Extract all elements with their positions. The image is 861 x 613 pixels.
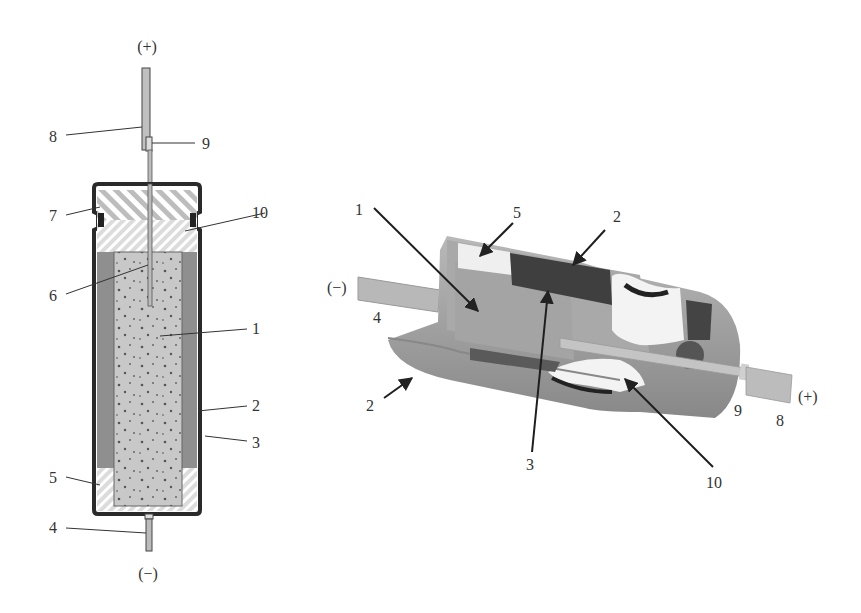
cutaway-label-4: 4 <box>373 309 381 326</box>
cutaway-label-5: 5 <box>513 204 521 221</box>
case-groove-right <box>190 213 196 227</box>
case-groove-left <box>98 213 104 227</box>
cutaway-polarity-positive: (+) <box>798 388 818 406</box>
anode-wire-embedded <box>148 184 152 306</box>
cutaway-label-3: 3 <box>526 456 534 473</box>
end-dark-block <box>686 300 712 340</box>
negative-lead <box>146 519 152 551</box>
label-4: 4 <box>49 519 57 536</box>
cutaway-label-8: 8 <box>776 412 784 429</box>
negative-lead-tab <box>145 514 153 519</box>
label-10: 10 <box>252 204 268 221</box>
cutaway-illustration: 1 5 2 (−) 4 2 3 10 9 8 (+) <box>327 201 818 491</box>
label-2: 2 <box>252 397 260 414</box>
label-7: 7 <box>49 207 57 224</box>
cutaway-label-9: 9 <box>734 402 742 419</box>
positive-lead-strip <box>746 367 792 403</box>
label-1: 1 <box>252 320 260 337</box>
cutaway-label-2-top: 2 <box>613 208 621 225</box>
cutaway-label-1: 1 <box>355 201 363 218</box>
label-9: 9 <box>202 135 210 152</box>
label-5: 5 <box>49 469 57 486</box>
cutaway-polarity-negative: (−) <box>327 279 347 297</box>
weld-joint <box>146 137 152 151</box>
cross-section-diagram: (+) (−) 8 9 7 10 6 1 2 3 5 4 <box>49 38 268 583</box>
insulating-spacer <box>97 220 197 252</box>
capacitor-diagram: (+) (−) 8 9 7 10 6 1 2 3 5 4 <box>0 0 861 613</box>
label-6: 6 <box>49 287 57 304</box>
seal-white <box>612 274 684 345</box>
negative-lead-strip <box>358 277 440 312</box>
cutaway-label-10: 10 <box>706 474 722 491</box>
label-3: 3 <box>252 434 260 451</box>
polarity-positive-label: (+) <box>137 38 157 56</box>
polarity-negative-label: (−) <box>138 565 158 583</box>
label-8: 8 <box>49 128 57 145</box>
seal <box>97 190 197 220</box>
cutaway-label-2-bottom: 2 <box>366 397 374 414</box>
